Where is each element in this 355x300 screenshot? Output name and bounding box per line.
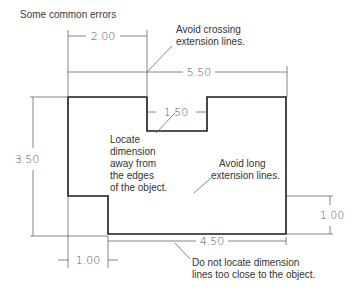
dim-2-00: 2.00 (91, 30, 116, 43)
note-locate-away: Locate dimension away from the edges of … (110, 134, 167, 194)
dim-bottom-1-00: 1.00 (76, 254, 101, 267)
leader-line (194, 178, 211, 193)
note-avoid-crossing: Avoid crossing extension lines. (176, 24, 245, 48)
dim-3-50: 3.50 (15, 153, 40, 166)
dim-4-50: 4.50 (200, 235, 225, 248)
note-avoid-long: Avoid long extension lines. (211, 158, 280, 182)
dim-5-50: 5.50 (187, 66, 212, 79)
leader-line (147, 46, 172, 72)
dim-right-1-00: 1.00 (320, 209, 345, 222)
note-too-close: Do not locate dimension lines too close … (192, 257, 315, 281)
dim-1-50: 1.50 (164, 106, 189, 119)
leader-line (175, 243, 190, 259)
